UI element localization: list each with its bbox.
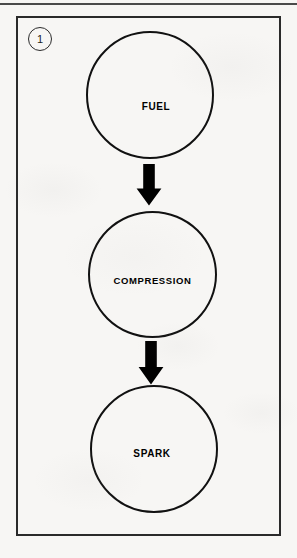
flow-node-fuel-label: FUEL (142, 101, 171, 112)
flow-arrow-compression-to-spark (138, 341, 164, 385)
page-top-rule (0, 3, 297, 5)
block-arrow-shape (139, 341, 164, 385)
flow-node-fuel: FUEL (86, 31, 214, 159)
figure-number-label: 1 (37, 34, 43, 45)
block-arrow-shape (137, 164, 162, 206)
flow-node-spark-label: SPARK (133, 448, 170, 459)
figure-page: 1 FUEL COMPRESSION SPARK (0, 0, 297, 558)
flow-node-compression-label: COMPRESSION (114, 275, 192, 286)
figure-number-badge: 1 (28, 27, 52, 51)
flow-node-compression: COMPRESSION (88, 211, 217, 338)
flow-node-spark: SPARK (90, 385, 218, 513)
flow-arrow-fuel-to-compression (136, 164, 162, 206)
